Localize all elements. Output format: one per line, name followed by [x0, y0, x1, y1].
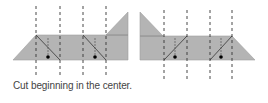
right-strip-flap [140, 12, 163, 36]
figure-caption: Cut beginning in the center. [13, 80, 132, 91]
right-strip-figure [140, 10, 255, 80]
cut-start-dot [93, 55, 97, 59]
left-strip-paper [13, 35, 128, 60]
left-strip-figure [13, 6, 128, 78]
cut-start-dot [219, 55, 223, 59]
cut-start-dot [173, 55, 177, 59]
cut-start-dot [46, 55, 50, 59]
right-strip-paper [140, 36, 255, 60]
folding-diagram [0, 0, 268, 80]
left-strip-flap [106, 12, 128, 35]
